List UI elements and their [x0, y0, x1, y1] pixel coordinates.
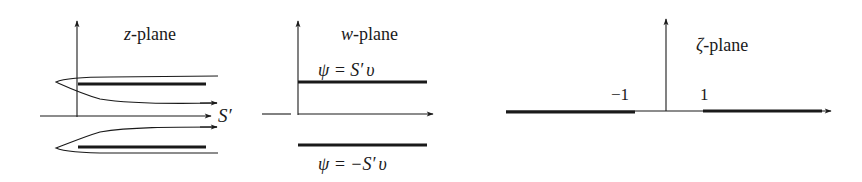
- zeta-plane-panel: ζ-plane −1 1: [506, 19, 831, 112]
- w-lower-label: ψ = −S′υ: [318, 154, 387, 174]
- w-upper-label: ψ = S′υ: [318, 60, 375, 80]
- zeta-neg-one-label: −1: [611, 85, 629, 104]
- z-flow-label: S′: [218, 105, 233, 126]
- conformal-map-diagram: z-plane S′ w-plane ψ = S′υ ψ = −S′υ ζ-pl…: [0, 0, 862, 182]
- w-plane-panel: w-plane ψ = S′υ ψ = −S′υ: [262, 21, 433, 174]
- w-plane-title: w-plane: [341, 24, 398, 44]
- zeta-one-label: 1: [700, 85, 709, 104]
- z-lower-streamline: [56, 127, 218, 153]
- z-upper-streamline: [56, 76, 218, 104]
- z-plane-panel: z-plane S′: [40, 21, 233, 153]
- z-plane-title: z-plane: [123, 24, 176, 44]
- zeta-plane-title: ζ-plane: [696, 35, 748, 55]
